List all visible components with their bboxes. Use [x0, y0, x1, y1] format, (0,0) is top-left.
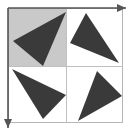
figure-container: Four triangles arranged in a 2x2 grid wi…	[0, 0, 128, 131]
triangles-grid-diagram: Four triangles arranged in a 2x2 grid wi…	[0, 0, 128, 131]
